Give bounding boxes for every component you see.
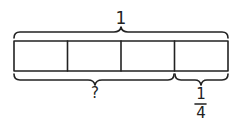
unknown-label: ? — [87, 86, 103, 101]
fraction-denominator: 4 — [193, 106, 209, 121]
top-brace — [14, 27, 228, 38]
fraction-numerator: 1 — [193, 87, 209, 102]
whole-label: 1 — [113, 10, 129, 27]
quarter-brace — [175, 74, 228, 85]
